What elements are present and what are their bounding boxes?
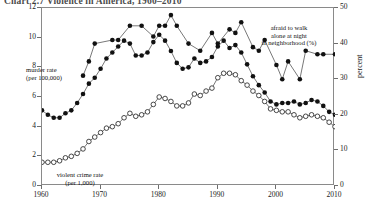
right-axis-tick-50: 50 bbox=[340, 2, 364, 11]
axis-tick-mark bbox=[217, 185, 218, 189]
x-axis-tick-1990: 1990 bbox=[200, 190, 234, 199]
axis-tick-mark bbox=[37, 37, 41, 38]
axis-tick-mark bbox=[334, 43, 338, 44]
x-axis-tick-1980: 1980 bbox=[141, 190, 175, 199]
left-axis-tick-12: 12 bbox=[14, 2, 36, 11]
x-axis-tick-1960: 1960 bbox=[24, 190, 58, 199]
axis-tick-mark bbox=[100, 185, 101, 189]
right-axis-tick-40: 40 bbox=[340, 38, 364, 47]
x-axis-tick-2010: 2010 bbox=[317, 190, 351, 199]
chart-title: Chart 2.7 Violence in America, 1960–2010 bbox=[4, 0, 304, 6]
axis-tick-mark bbox=[41, 185, 42, 189]
axis-tick-mark bbox=[37, 155, 41, 156]
axis-tick-mark bbox=[334, 7, 338, 8]
right-axis-tick-10: 10 bbox=[340, 144, 364, 153]
axis-tick-mark bbox=[37, 66, 41, 67]
chart-page: Chart 2.7 Violence in America, 1960–2010… bbox=[0, 0, 377, 210]
x-axis-tick-1970: 1970 bbox=[83, 190, 117, 199]
x-axis-tick-2000: 2000 bbox=[258, 190, 292, 199]
left-axis-tick-8: 8 bbox=[14, 61, 36, 70]
axis-tick-mark bbox=[275, 185, 276, 189]
left-axis-tick-2: 2 bbox=[14, 150, 36, 159]
annotation-afraid-to-walk: afraid to walk alone at night in neighbo… bbox=[243, 24, 335, 47]
left-axis-tick-0: 0 bbox=[14, 180, 36, 189]
right-axis-tick-30: 30 bbox=[340, 73, 364, 82]
right-axis-tick-0: 0 bbox=[340, 180, 364, 189]
right-axis-tick-20: 20 bbox=[340, 109, 364, 118]
axis-tick-mark bbox=[334, 78, 338, 79]
annotation-murder-rate: murder rate (per 100,000) bbox=[26, 66, 96, 81]
annotation-violent-crime-rate: violent crime rate (per 1,000) bbox=[38, 171, 122, 186]
left-axis-tick-10: 10 bbox=[14, 32, 36, 41]
axis-tick-mark bbox=[334, 185, 335, 189]
left-axis-tick-6: 6 bbox=[14, 91, 36, 100]
left-axis-tick-4: 4 bbox=[14, 121, 36, 130]
axis-tick-mark bbox=[37, 7, 41, 8]
axis-tick-mark bbox=[334, 114, 338, 115]
axis-tick-mark bbox=[37, 126, 41, 127]
axis-tick-mark bbox=[37, 96, 41, 97]
axis-tick-mark bbox=[334, 149, 338, 150]
axis-tick-mark bbox=[158, 185, 159, 189]
